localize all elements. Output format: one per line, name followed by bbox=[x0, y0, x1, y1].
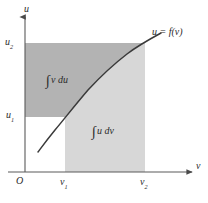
tick-label-u1-subscript: 1 bbox=[11, 116, 14, 123]
annotation-curve-equation: u = f(v) bbox=[152, 27, 183, 37]
annotation-integral-v-du: ∫v du bbox=[46, 73, 68, 85]
annotation-integral-v-du-body: v du bbox=[51, 74, 68, 85]
tick-label-v2: v2 bbox=[140, 177, 148, 189]
origin-label: O bbox=[16, 176, 23, 186]
tick-label-v2-subscript: 2 bbox=[144, 183, 147, 190]
tick-label-u2: u2 bbox=[5, 37, 13, 49]
annotation-integral-u-dv: ∫u dv bbox=[92, 124, 114, 136]
tick-label-v1-subscript: 1 bbox=[64, 183, 67, 190]
axis-label-u: u bbox=[24, 4, 29, 14]
integral-sign-icon: ∫ bbox=[46, 72, 51, 88]
annotation-integral-u-dv-body: u dv bbox=[97, 125, 114, 136]
tick-label-u1: u1 bbox=[6, 110, 14, 122]
integration-by-parts-figure: u v O u2 u1 v1 v2 ∫v du ∫u dv u = f(v) bbox=[0, 0, 208, 203]
tick-label-v1: v1 bbox=[60, 177, 68, 189]
tick-label-u2-subscript: 2 bbox=[10, 43, 13, 50]
integral-sign-icon: ∫ bbox=[92, 123, 97, 139]
axis-label-v: v bbox=[196, 161, 200, 171]
